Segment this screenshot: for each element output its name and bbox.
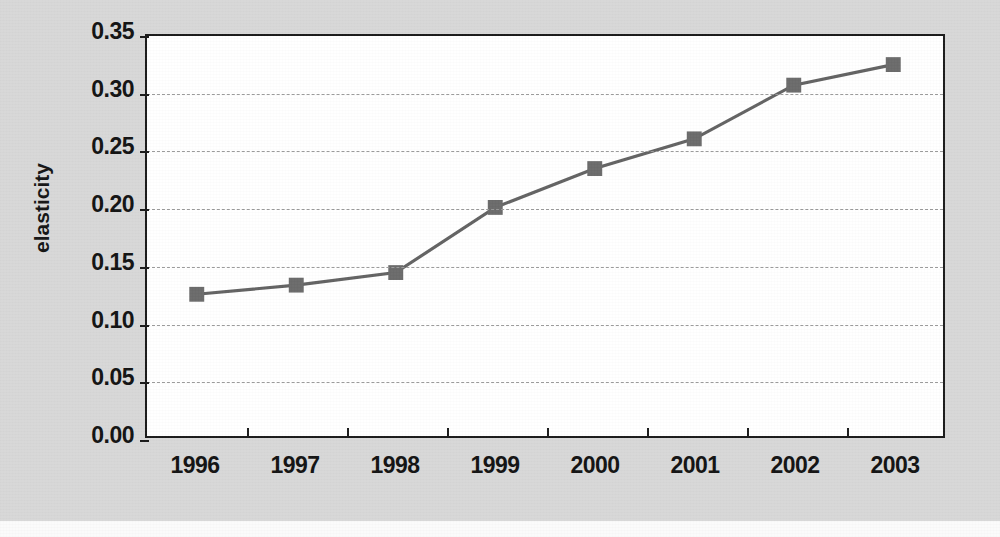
y-axis-tick-label: 0.20 [50, 191, 134, 218]
y-axis-tick-label: 0.05 [50, 364, 134, 391]
y-axis-tick-label: 0.00 [50, 422, 134, 449]
y-axis-tick-label: 0.30 [50, 76, 134, 103]
y-axis-tick-label: 0.35 [50, 18, 134, 45]
y-axis-tick-labels: 0.000.050.100.150.200.250.300.35 [50, 0, 134, 537]
line-chart-figure: elasticity 0.000.050.100.150.200.250.300… [0, 0, 1000, 537]
y-axis-tick-label: 0.10 [50, 307, 134, 334]
y-axis-tick-label: 0.25 [50, 133, 134, 160]
x-axis-tick-labels: 19961997199819992000200120022003 [145, 0, 945, 537]
y-axis-tick-label: 0.15 [50, 249, 134, 276]
scanned-page: elasticity 0.000.050.100.150.200.250.300… [0, 0, 1000, 537]
x-axis-tick-label: 2003 [835, 452, 955, 479]
